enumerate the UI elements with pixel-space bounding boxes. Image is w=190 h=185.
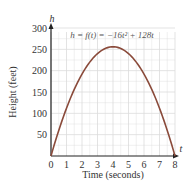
y-axis-label: Height (feet) xyxy=(7,66,19,117)
y-tick-label: 200 xyxy=(32,65,47,76)
y-tick-label: 50 xyxy=(37,129,47,140)
equation-annotation: h = f(t) = −16t² + 128t xyxy=(70,30,154,40)
x-axis-label: Time (seconds) xyxy=(82,169,144,181)
y-tick-label: 250 xyxy=(32,44,47,55)
x-tick-label: 8 xyxy=(173,159,178,170)
projectile-height-chart: 012345678 50100150200250300 h = f(t) = −… xyxy=(0,0,190,185)
y-axis: 50100150200250300 xyxy=(32,23,54,157)
x-axis-var-label: t xyxy=(180,143,183,154)
y-tick-label: 300 xyxy=(32,23,47,34)
y-tick-label: 150 xyxy=(32,87,47,98)
y-axis-var-label: h xyxy=(50,13,55,24)
x-tick-label: 1 xyxy=(64,159,69,170)
x-tick-label: 7 xyxy=(157,159,162,170)
y-tick-label: 100 xyxy=(32,108,47,119)
x-axis: 012345678 xyxy=(49,154,180,171)
x-tick-label: 0 xyxy=(49,159,54,170)
